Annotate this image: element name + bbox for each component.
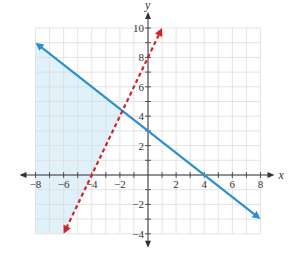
y-tick-label: 6 bbox=[139, 81, 145, 93]
x-axis-arrow-right-icon bbox=[267, 172, 274, 178]
y-tick-label: 2 bbox=[139, 140, 145, 152]
x-tick-label: 4 bbox=[201, 178, 207, 190]
x-tick-label: 2 bbox=[173, 178, 179, 190]
y-tick-label: −4 bbox=[132, 228, 144, 240]
x-tick-label: −2 bbox=[114, 178, 126, 190]
x-tick-label: −4 bbox=[86, 178, 98, 190]
x-tick-label: −6 bbox=[58, 178, 70, 190]
x-tick-label: 8 bbox=[258, 178, 264, 190]
y-tick-label: 10 bbox=[133, 22, 145, 34]
y-tick-label: −2 bbox=[132, 198, 144, 210]
chart: −8−6−4−22468−4−2246810 x y bbox=[0, 0, 294, 254]
x-tick-label: −8 bbox=[30, 178, 42, 190]
y-axis-label: y bbox=[144, 0, 151, 12]
y-axis-arrow-up-icon bbox=[145, 12, 151, 19]
x-tick-label: 6 bbox=[230, 178, 236, 190]
y-tick-label: 4 bbox=[139, 110, 145, 122]
y-axis-arrow-down-icon bbox=[145, 241, 151, 248]
x-axis-arrow-left-icon bbox=[20, 172, 27, 178]
x-axis-label: x bbox=[277, 168, 284, 182]
y-tick-label: 8 bbox=[139, 51, 145, 63]
